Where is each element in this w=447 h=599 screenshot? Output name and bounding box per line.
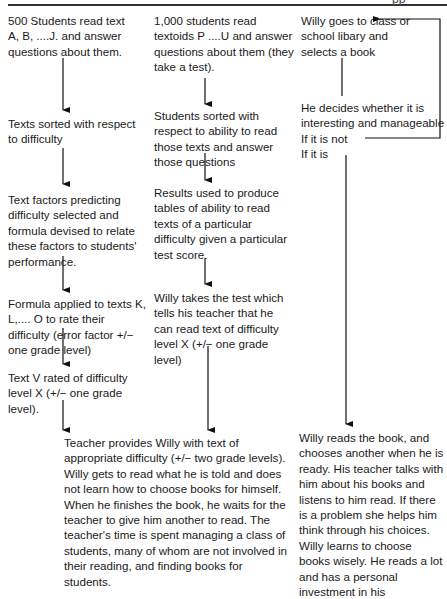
- step-texts-sorted: Texts sorted with respect to difficulty: [8, 116, 138, 147]
- step-text-v-rated: Text V rated of difficulty level X (+/− …: [8, 370, 144, 416]
- step-students-sorted: Students sorted with respect to ability …: [154, 108, 294, 170]
- step-willy-selects-book: Willy goes to class or school libary and…: [301, 13, 421, 59]
- step-willy-takes-test: Willy takes the test which tells his tea…: [154, 290, 294, 367]
- step-willy-decides: He decides whether it is interesting and…: [301, 100, 447, 131]
- outcome-teacher-provides: Teacher provides Willy with text of appr…: [64, 435, 289, 589]
- branch-if-is: If it is: [301, 146, 381, 161]
- step-text-factors: Text factors predicting difficulty selec…: [8, 192, 148, 269]
- step-1000-students: 1,000 students read textoids P ....U and…: [154, 13, 294, 75]
- step-500-students: 500 Students read text A, B, ....J. and …: [8, 13, 138, 59]
- step-results-tables: Results used to produce tables of abilit…: [154, 185, 294, 262]
- branch-if-not: If it is not: [301, 131, 381, 146]
- outcome-willy-reads: Willy reads the book, and chooses anothe…: [299, 430, 445, 599]
- step-formula-applied: Formula applied to texts K, L,.... O to …: [8, 296, 148, 358]
